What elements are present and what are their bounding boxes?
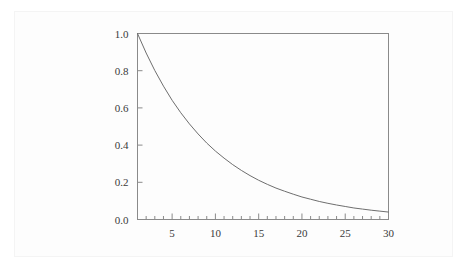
- x-tick-label: 5: [169, 227, 175, 239]
- y-axis-tick-marks: [138, 34, 143, 220]
- data-series-decay-curve: [138, 34, 389, 213]
- x-tick-label: 30: [383, 227, 395, 239]
- y-tick-label: 0.8: [115, 65, 129, 77]
- plot-figure: 51015202530 1.00.80.60.40.20.0: [0, 0, 467, 268]
- y-tick-label: 1.0: [115, 28, 129, 40]
- screenshot-root: 51015202530 1.00.80.60.40.20.0: [0, 0, 467, 268]
- y-tick-label: 0.0: [115, 214, 129, 226]
- y-tick-label: 0.4: [115, 139, 129, 151]
- x-axis-tick-marks: [138, 214, 389, 220]
- x-tick-label: 25: [340, 227, 352, 239]
- x-axis-tick-labels: 51015202530: [169, 227, 394, 239]
- y-axis-tick-labels: 1.00.80.60.40.20.0: [115, 28, 129, 226]
- x-tick-label: 20: [296, 227, 308, 239]
- plot-frame-box: [138, 34, 389, 220]
- x-tick-label: 10: [210, 227, 222, 239]
- x-tick-label: 15: [253, 227, 265, 239]
- plot-canvas: 51015202530 1.00.80.60.40.20.0: [0, 0, 467, 268]
- y-tick-label: 0.2: [115, 176, 129, 188]
- y-tick-label: 0.6: [115, 102, 129, 114]
